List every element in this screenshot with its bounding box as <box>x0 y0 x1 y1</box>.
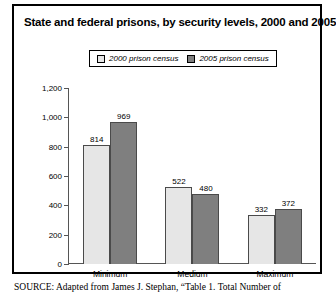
y-tick-label: 600 <box>49 172 62 181</box>
bar-value-label: 372 <box>282 199 295 208</box>
bar-pair: 332372 <box>248 209 302 264</box>
legend-item-2000: 2000 prison census <box>97 54 178 63</box>
y-tick-label: 1,200 <box>42 84 62 93</box>
legend-item-2005: 2005 prison census <box>187 54 268 63</box>
bar-value-label: 969 <box>117 112 130 121</box>
figure-frame: State and federal prisons, by security l… <box>12 4 322 274</box>
y-tick-label: 1,000 <box>42 113 62 122</box>
y-tick-label: 800 <box>49 142 62 151</box>
y-tick-label: 400 <box>49 201 62 210</box>
chart-legend: 2000 prison census 2005 prison census <box>89 50 277 67</box>
bar[interactable]: 480 <box>192 194 219 264</box>
x-axis-category-label: Maximum <box>256 269 293 279</box>
page-title: State and federal prisons, by security l… <box>24 16 316 29</box>
bar-group: 522480Medium <box>151 88 233 264</box>
legend-swatch-2005-icon <box>187 55 195 63</box>
bar-value-label: 522 <box>172 177 185 186</box>
bar-pair: 814969 <box>83 122 137 264</box>
legend-swatch-2000-icon <box>97 55 105 63</box>
bar-groups: 814969Minimum522480Medium332372Maximum <box>69 88 316 264</box>
bar-value-label: 480 <box>199 184 212 193</box>
bar-value-label: 814 <box>90 135 103 144</box>
bar[interactable]: 372 <box>275 209 302 264</box>
y-tick-label: 200 <box>49 230 62 239</box>
legend-label-2005: 2005 prison census <box>199 54 268 63</box>
bar-group: 332372Maximum <box>234 88 316 264</box>
y-tick-mark <box>64 264 69 265</box>
plot-area: 02004006008001,0001,200 814969Minimum522… <box>68 88 316 264</box>
figure-container: State and federal prisons, by security l… <box>0 0 336 302</box>
y-tick-label: 0 <box>58 260 62 269</box>
bar-value-label: 332 <box>255 205 268 214</box>
x-axis-category-label: Medium <box>177 269 207 279</box>
bar[interactable]: 814 <box>83 145 110 264</box>
source-note: SOURCE: Adapted from James J. Stephan, “… <box>14 281 326 293</box>
bar-group: 814969Minimum <box>69 88 151 264</box>
legend-label-2000: 2000 prison census <box>109 54 178 63</box>
bar[interactable]: 332 <box>248 215 275 264</box>
bar[interactable]: 969 <box>110 122 137 264</box>
source-kicker: SOURCE: <box>14 282 54 292</box>
bar-pair: 522480 <box>165 187 219 264</box>
x-axis-category-label: Minimum <box>93 269 127 279</box>
source-text: Adapted from James J. Stephan, “Table 1.… <box>56 282 281 292</box>
bar[interactable]: 522 <box>165 187 192 264</box>
